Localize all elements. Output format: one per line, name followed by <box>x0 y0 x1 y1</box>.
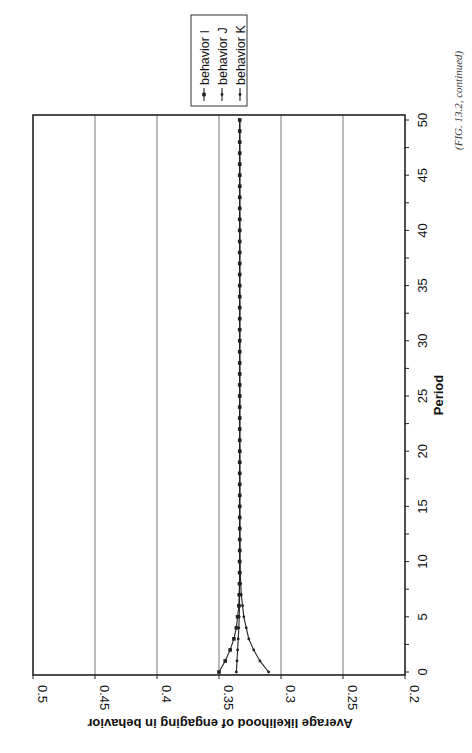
series-line <box>240 120 269 672</box>
gridlines <box>95 115 343 675</box>
chart: 05101520253035404550 0.20.250.30.350.40.… <box>0 0 472 753</box>
y-axis-label: Average likelihood of engaging in behavi… <box>87 716 352 731</box>
figure-caption: (FIG. 13.2, continued) <box>452 51 464 150</box>
x-tick-label: 30 <box>415 334 430 348</box>
x-tick-label: 40 <box>415 223 430 237</box>
y-tick-label: 0.4 <box>159 685 174 703</box>
legend: behavior Ibehavior Jbehavior K <box>191 15 248 106</box>
x-tick-label: 25 <box>415 389 430 403</box>
x-axis-label: Period <box>431 375 446 416</box>
y-tick-label: 0.5 <box>35 685 50 703</box>
series-line <box>219 120 240 672</box>
x-tick-label: 45 <box>415 168 430 182</box>
y-tick-label: 0.35 <box>221 685 236 710</box>
legend-entry: behavior K <box>234 25 248 85</box>
x-tick-label: 10 <box>415 554 430 568</box>
x-tick-label: 20 <box>415 444 430 458</box>
series-lines <box>217 118 270 674</box>
likelihood-axis: 0.20.250.30.350.40.450.5 <box>33 675 422 710</box>
y-tick-label: 0.2 <box>407 685 422 703</box>
x-tick-label: 15 <box>415 499 430 513</box>
period-axis: 05101520253035404550 <box>405 113 430 676</box>
x-tick-label: 50 <box>415 113 430 127</box>
x-tick-label: 5 <box>415 613 430 620</box>
legend-entry: behavior J <box>216 27 230 85</box>
y-tick-label: 0.45 <box>97 685 112 710</box>
legend-entry: behavior I <box>198 30 212 85</box>
x-tick-label: 35 <box>415 278 430 292</box>
y-tick-label: 0.3 <box>283 685 298 703</box>
y-tick-label: 0.25 <box>345 685 360 710</box>
x-tick-label: 0 <box>415 668 430 675</box>
